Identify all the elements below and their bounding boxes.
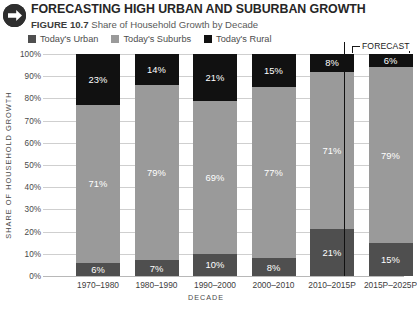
x-axis-tick-label: 1970–1980: [77, 280, 119, 290]
bar-segment-value: 23%: [76, 54, 120, 105]
y-axis-tick-label: 0%: [29, 272, 41, 281]
stacked-bar[interactable]: 14%79%7%: [135, 54, 179, 276]
bar-segment-value: 8%: [252, 258, 296, 276]
legend-label-urban: Today's Urban: [40, 34, 98, 44]
bar-segment-value: 14%: [135, 54, 179, 85]
y-axis-tick-label: 30%: [25, 205, 41, 214]
gridline: [43, 276, 404, 277]
stacked-bar[interactable]: 23%71%6%: [76, 54, 120, 276]
stacked-bar[interactable]: 15%77%8%: [252, 54, 296, 276]
stacked-bar[interactable]: 21%69%10%: [193, 54, 237, 276]
chart-header: FORECASTING HIGH URBAN AND SUBURBAN GROW…: [0, 0, 412, 50]
y-axis-tick-label: 90%: [25, 72, 41, 81]
bar-segment-value: 15%: [369, 243, 413, 276]
y-axis-tick-label: 50%: [25, 161, 41, 170]
forecast-bracket-tick-left: [352, 46, 353, 53]
y-axis-title: SHARE OF HOUSEHOLD GROWTH: [3, 54, 14, 276]
legend-item-urban: Today's Urban: [28, 34, 98, 44]
y-axis-tick-label: 80%: [25, 94, 41, 103]
y-axis-tick-label: 40%: [25, 183, 41, 192]
legend-item-rural: Today's Rural: [204, 34, 271, 44]
bar-segment-value: 71%: [76, 105, 120, 263]
y-axis-tick-label: 10%: [25, 249, 41, 258]
bar-segment-value: 77%: [252, 87, 296, 258]
arrow-right-circle-icon: [3, 4, 26, 27]
legend-swatch-urban: [28, 35, 36, 43]
bar-segment-value: 7%: [135, 260, 179, 276]
bar-segment-value: 15%: [252, 54, 296, 87]
legend-swatch-suburbs: [111, 35, 119, 43]
plot-area: 0%10%20%30%40%50%60%70%80%90%100% 23%71%…: [48, 54, 404, 276]
x-axis-title: DECADE: [0, 293, 412, 302]
chart-legend: Today's Urban Today's Suburbs Today's Ru…: [28, 34, 271, 44]
x-axis-tick-label: 2010–2015P: [308, 280, 356, 290]
page-title: FORECASTING HIGH URBAN AND SUBURBAN GROW…: [31, 2, 366, 16]
bar-segment-value: 69%: [193, 101, 237, 254]
forecast-label: FORECAST: [360, 41, 412, 51]
y-axis-tick-label: 20%: [25, 227, 41, 236]
legend-swatch-rural: [204, 35, 212, 43]
legend-label-rural: Today's Rural: [216, 34, 271, 44]
figure-caption-text: Share of Household Growth by Decade: [91, 19, 258, 30]
bar-segment-value: 6%: [76, 263, 120, 276]
figure-number: FIGURE 10.7: [31, 19, 89, 30]
bar-segment-value: 10%: [193, 254, 237, 276]
stacked-bar[interactable]: 6%79%15%: [369, 54, 413, 276]
stacked-bar[interactable]: 8%71%21%: [310, 54, 354, 276]
bar-segment-value: 8%: [310, 54, 354, 72]
y-axis-tick-label: 100%: [20, 50, 41, 59]
bar-segment-value: 6%: [369, 54, 413, 67]
figure-caption: FIGURE 10.7 Share of Household Growth by…: [31, 19, 258, 30]
bar-segment-value: 71%: [310, 72, 354, 230]
forecast-divider-line: [344, 42, 345, 276]
x-axis-tick-label: 2015P–2025P: [364, 280, 417, 290]
legend-label-suburbs: Today's Suburbs: [123, 34, 191, 44]
y-axis-tick-label: 60%: [25, 138, 41, 147]
legend-item-suburbs: Today's Suburbs: [111, 34, 191, 44]
bar-segment-value: 21%: [310, 229, 354, 276]
x-axis-tick-label: 2000–2010: [253, 280, 295, 290]
bar-segment-value: 79%: [369, 67, 413, 242]
x-axis-tick-label: 1980–1990: [136, 280, 178, 290]
bar-group: 23%71%6%14%79%7%21%69%10%15%77%8%8%71%21…: [48, 54, 404, 276]
y-axis-tick-label: 70%: [25, 116, 41, 125]
forecast-bracket: FORECAST: [352, 41, 410, 54]
bar-segment-value: 79%: [135, 85, 179, 260]
x-axis-tick-label: 1990–2000: [194, 280, 236, 290]
bar-segment-value: 21%: [193, 54, 237, 101]
